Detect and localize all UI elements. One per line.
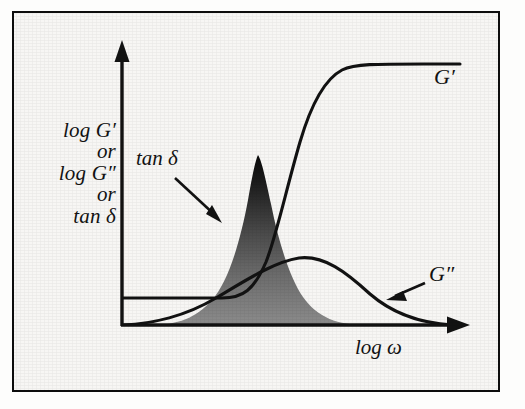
y-axis-label-line: log G″: [20, 163, 116, 184]
figure-container: log G′ or log G″ or tan δ log ω tan δ G′…: [0, 0, 525, 409]
y-axis-label-line: log G′: [20, 120, 116, 141]
series-g-prime-line: [123, 64, 460, 298]
g-double-prime-callout-arrow: [386, 283, 425, 301]
y-axis-label: log G′ or log G″ or tan δ: [20, 120, 116, 227]
y-axis-label-line: or: [20, 184, 116, 205]
series-label-tan-delta: tan δ: [136, 148, 178, 169]
series-label-g-prime: G′: [434, 66, 455, 88]
tan-delta-callout-arrow: [175, 178, 222, 223]
y-axis: [115, 40, 130, 326]
series-label-g-double-prime: G″: [429, 263, 454, 285]
x-axis-label: log ω: [355, 337, 402, 358]
y-axis-label-line: or: [20, 141, 116, 162]
y-axis-label-line: tan δ: [20, 206, 116, 227]
